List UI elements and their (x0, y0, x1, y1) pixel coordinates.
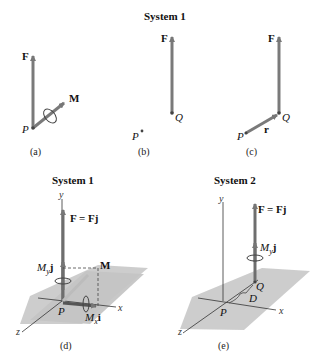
distance-label: D (248, 292, 257, 304)
force-label: F = Fj (258, 203, 286, 215)
force-label: F (22, 50, 29, 62)
panel-a: F M P (a) (21, 50, 80, 158)
ground-plane (180, 268, 310, 330)
point-q (277, 111, 281, 115)
moment-vector (33, 103, 64, 128)
panel-c: F r Q P (c) (236, 32, 290, 158)
force-label: F (161, 32, 168, 44)
panel-d-title: System 1 (52, 174, 94, 186)
z-axis-label: z (177, 326, 182, 337)
point-p-label: P (219, 306, 227, 318)
point-p-label: P (21, 123, 29, 135)
moment-label: M (69, 92, 80, 104)
point-q-label: Q (282, 111, 290, 123)
force-label: F = Fj (70, 212, 98, 224)
panel-b: F Q P (b) (131, 32, 183, 158)
point-p (31, 126, 35, 130)
position-label: r (264, 123, 269, 135)
caption-e: (e) (218, 340, 229, 352)
ground-plane-shade (20, 265, 148, 324)
point-p-label: P (236, 130, 244, 142)
position-vector (246, 115, 277, 133)
x-axis-label: x (117, 302, 123, 313)
caption-b: (b) (138, 146, 150, 158)
point-p (244, 131, 247, 134)
force-label: F (268, 32, 275, 44)
my-label: Myj (259, 241, 276, 256)
my-label: Myj (36, 261, 53, 276)
panel-d: System 1 y x z F = Fj Myj M Mxi P (d) (15, 174, 148, 352)
panel-e: System 2 y x z F = Fj Myj Q D P (e) (177, 174, 310, 352)
point-q-label: Q (256, 280, 264, 292)
caption-c: (c) (246, 146, 257, 158)
panel-e-title: System 2 (214, 174, 256, 186)
caption-a: (a) (30, 146, 41, 158)
point-p-label: P (57, 305, 65, 317)
point-q (170, 111, 174, 115)
y-axis-label: y (58, 189, 64, 200)
moment-label: M (100, 259, 111, 271)
top-title: System 1 (144, 10, 186, 22)
y-axis-label: y (218, 193, 224, 204)
point-p-label: P (131, 130, 139, 142)
statics-equivalent-systems-figure: System 1 F M P (a) F Q P (b) F r Q P (c)… (0, 0, 319, 363)
point-q-label: Q (175, 111, 183, 123)
z-axis-label: z (15, 326, 20, 337)
caption-d: (d) (60, 340, 72, 352)
point-p (141, 130, 144, 133)
x-axis-label: x (278, 305, 284, 316)
